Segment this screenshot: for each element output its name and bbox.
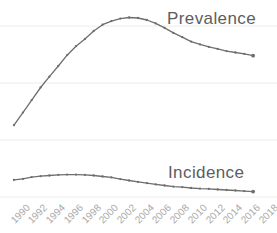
line-chart: Prevalence Incidence 1990199219941996199… [0, 0, 277, 233]
x-tick-label: 2010 [185, 202, 209, 226]
x-tick-label: 1996 [61, 202, 85, 226]
x-tick-label: 2018 [256, 202, 277, 226]
x-axis-tick-labels: 1990199219941996199820002002200420062008… [0, 0, 277, 233]
